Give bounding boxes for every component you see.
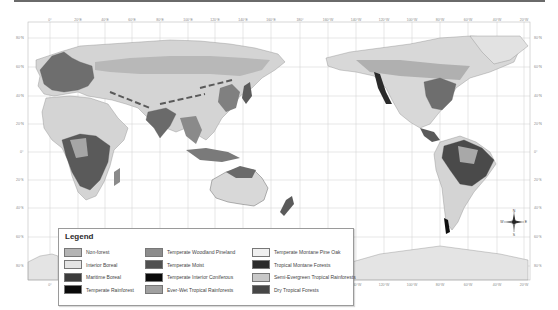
legend-column-1: Non-forest Interior Boreal Maritime Bore…: [64, 246, 134, 296]
indonesia: [186, 148, 240, 162]
legend-item-temperate-interior-coniferous: Temperate Interior Coniferous: [145, 271, 235, 284]
top-axis-label: 20°W: [520, 18, 529, 22]
swatch-non-forest: [64, 248, 82, 257]
swatch-temperate-woodland-pineland: [145, 248, 163, 257]
legend-item-ever-wet-tropical-rainforests: Ever-Wet Tropical Rainforests: [145, 284, 235, 297]
top-axis-label: 140°W: [351, 18, 362, 22]
swatch-tropical-montane-forests: [252, 260, 270, 269]
top-axis-label: 80°W: [436, 18, 445, 22]
swatch-semi-evergreen-tropical-rainforests: [252, 273, 270, 282]
legend-item-interior-boreal: Interior Boreal: [64, 259, 134, 272]
legend-label: Temperate Moist: [167, 262, 204, 268]
top-axis-label: 120°E: [210, 18, 220, 22]
legend-item-tropical-montane-forests: Tropical Montane Forests: [252, 259, 356, 272]
swatch-interior-boreal: [64, 260, 82, 269]
left-lat-label: 0°: [20, 150, 23, 154]
left-lat-label: 20°N: [16, 122, 24, 126]
right-lat-label: 20°S: [534, 178, 542, 182]
legend-column-2: Temperate Woodland Pineland Temperate Mo…: [145, 246, 235, 296]
right-lat-label: 40°S: [534, 206, 542, 210]
antarctica-east: [352, 246, 528, 280]
bottom-axis-label: 40°W: [493, 283, 502, 287]
swatch-temperate-moist: [145, 260, 163, 269]
antarctica-west: [28, 254, 58, 280]
bottom-axis-label: 100°W: [407, 283, 418, 287]
top-axis-label: 20°E: [74, 18, 82, 22]
compass-w: W: [500, 220, 504, 224]
legend-label: Temperate Rainforest: [86, 287, 134, 293]
top-axis-label: 60°E: [128, 18, 136, 22]
legend-label: Tropical Montane Forests: [274, 262, 331, 268]
compass-e: E: [525, 220, 528, 224]
right-lat-label: 80°N: [534, 36, 542, 40]
top-axis-label: 100°W: [407, 18, 418, 22]
left-lat-label: 80°S: [16, 264, 24, 268]
right-lat-label: 0°: [534, 150, 537, 154]
legend-item-temperate-woodland-pineland: Temperate Woodland Pineland: [145, 246, 235, 259]
right-lat-label: 60°S: [534, 235, 542, 239]
bottom-axis-label: 120°W: [379, 283, 390, 287]
central-america: [420, 128, 440, 142]
legend-item-temperate-moist: Temperate Moist: [145, 259, 235, 272]
legend-label: Temperate Montane Pine Oak: [274, 249, 340, 255]
legend-item-temperate-rainforest: Temperate Rainforest: [64, 284, 134, 297]
swatch-temperate-montane-pine-oak: [252, 248, 270, 257]
right-lat-label: 20°N: [534, 122, 542, 126]
left-lat-label: 60°N: [16, 65, 24, 69]
top-axis-label: 80°E: [156, 18, 164, 22]
legend-column-3: Temperate Montane Pine Oak Tropical Mont…: [252, 246, 356, 296]
legend-item-temperate-montane-pine-oak: Temperate Montane Pine Oak: [252, 246, 356, 259]
compass-s: S: [513, 233, 516, 237]
right-lat-label: 60°N: [534, 65, 542, 69]
swatch-temperate-interior-coniferous: [145, 273, 163, 282]
legend-label: Dry Tropical Forests: [274, 287, 319, 293]
legend-item-non-forest: Non-forest: [64, 246, 134, 259]
swatch-temperate-rainforest: [64, 285, 82, 294]
compass-rose-icon: N S W E: [500, 208, 528, 236]
top-axis-label: 180°: [296, 18, 303, 22]
swatch-dry-tropical-forests: [252, 285, 270, 294]
legend-item-maritime-boreal: Maritime Boreal: [64, 271, 134, 284]
compass-n: N: [513, 209, 516, 213]
top-axis-label: 100°E: [183, 18, 193, 22]
legend-label: Ever-Wet Tropical Rainforests: [167, 287, 233, 293]
top-axis-label: 160°W: [323, 18, 334, 22]
left-lat-label: 80°N: [16, 36, 24, 40]
top-axis-label: 140°E: [238, 18, 248, 22]
india-dry-tropical: [146, 108, 176, 138]
bottom-axis-label: 80°W: [436, 283, 445, 287]
top-axis-label: 0°: [48, 18, 51, 22]
legend-item-dry-tropical-forests: Dry Tropical Forests: [252, 284, 356, 297]
left-lat-label: 60°S: [16, 235, 24, 239]
top-axis-label: 120°W: [379, 18, 390, 22]
left-lat-label: 20°S: [16, 178, 24, 182]
top-axis-label: 160°E: [266, 18, 276, 22]
legend-label: Semi-Evergreen Tropical Rainforests: [274, 274, 356, 280]
legend-title: Legend: [65, 232, 93, 241]
legend-item-semi-evergreen-tropical-rainforests: Semi-Evergreen Tropical Rainforests: [252, 271, 356, 284]
swatch-maritime-boreal: [64, 273, 82, 282]
madagascar: [114, 168, 120, 186]
bottom-axis-label: 0°: [48, 283, 51, 287]
top-axis-label: 40°W: [493, 18, 502, 22]
left-lat-label: 40°S: [16, 206, 24, 210]
top-axis-label: 60°W: [464, 18, 473, 22]
legend-label: Temperate Interior Coniferous: [167, 274, 233, 280]
right-lat-label: 80°S: [534, 264, 542, 268]
new-zealand: [280, 196, 294, 216]
right-lat-label: 40°N: [534, 94, 542, 98]
bottom-axis-label: 60°W: [464, 283, 473, 287]
legend-box: Legend Non-forest Interior Boreal Mariti…: [58, 228, 354, 306]
left-lat-label: 40°N: [16, 94, 24, 98]
legend-label: Interior Boreal: [86, 262, 117, 268]
top-axis-label: 40°E: [101, 18, 109, 22]
legend-label: Maritime Boreal: [86, 274, 121, 280]
bottom-axis-label: 20°W: [520, 283, 529, 287]
legend-label: Temperate Woodland Pineland: [167, 249, 235, 255]
legend-label: Non-forest: [86, 249, 109, 255]
swatch-ever-wet-tropical-rainforests: [145, 285, 163, 294]
